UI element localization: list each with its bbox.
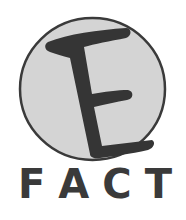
- wordmark: F A C T: [0, 164, 186, 204]
- e-circle-emblem: [18, 16, 167, 162]
- wordmark-letter: T: [145, 164, 172, 204]
- wordmark-letter: C: [102, 164, 131, 204]
- wordmark-letter: A: [58, 164, 89, 204]
- wordmark-letter: F: [18, 164, 45, 204]
- fact-logo: F A C T: [0, 0, 186, 220]
